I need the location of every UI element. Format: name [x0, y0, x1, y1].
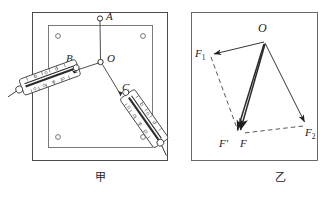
anchor-point-a — [97, 16, 102, 21]
label-f2-sub: 2 — [312, 132, 316, 141]
label-f1-sub: 1 — [202, 53, 206, 62]
label-o: O — [107, 52, 115, 64]
spring-scale-b-pull-line — [7, 91, 17, 97]
pin-bottom-left — [56, 135, 61, 140]
panel-jia: A O B C — [4, 10, 176, 161]
pin-top-left — [56, 34, 61, 39]
label-f: F — [239, 137, 247, 149]
panel-yi: O F1 F2 F′ F — [192, 13, 318, 161]
node-point-o — [98, 59, 103, 64]
vector-panel-frame — [192, 13, 318, 161]
panel-caption-jia: 甲 — [60, 168, 140, 184]
pin-top-right — [141, 34, 146, 39]
label-f-prime: F′ — [218, 137, 229, 149]
panel-caption-yi: 乙 — [240, 168, 320, 184]
label-a: A — [105, 10, 113, 22]
rubber-band-a-o — [100, 21, 101, 60]
label-vector-origin: O — [258, 21, 267, 35]
